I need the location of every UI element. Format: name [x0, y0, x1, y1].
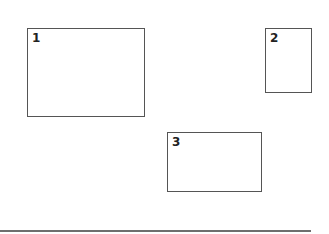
box-1-label: 1: [32, 31, 40, 45]
box-3-label: 3: [172, 135, 180, 149]
box-2-label: 2: [270, 31, 278, 45]
baseline-divider: [0, 230, 311, 232]
box-3: 3: [167, 132, 262, 192]
box-1: 1: [27, 28, 145, 117]
box-2: 2: [265, 28, 312, 93]
